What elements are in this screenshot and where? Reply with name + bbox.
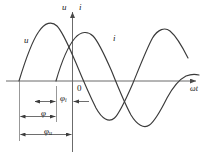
origin-label: 0 — [77, 84, 82, 93]
voltage-phase-subscript: u — [49, 130, 52, 136]
vertical-axis-label-i: i — [79, 3, 82, 12]
phase-difference-label: φ — [41, 109, 46, 118]
current-waveform — [56, 32, 199, 126]
vertical-axis-label-u: u — [62, 3, 67, 12]
horizontal-axis-label-omega-t: ωt — [190, 85, 198, 93]
current-phase-subscript: i — [65, 97, 67, 103]
phase-diagram-figure: u i ωt 0 u i φ φi φu — [0, 0, 208, 162]
waveform-canvas — [0, 0, 208, 162]
current-phase-label: φi — [60, 94, 67, 103]
phase-difference-symbol: φ — [41, 108, 46, 118]
voltage-curve-label: u — [24, 36, 29, 45]
current-curve-label: i — [113, 34, 116, 43]
voltage-phase-label: φu — [44, 127, 52, 136]
